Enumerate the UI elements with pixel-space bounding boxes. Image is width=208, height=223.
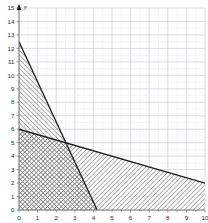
y-tick-label: 13 — [8, 31, 15, 38]
x-tick-marks — [19, 210, 205, 213]
y-tick-label: 0 — [11, 206, 15, 213]
x-tick-label: 1 — [36, 214, 40, 221]
y-axis-tick-labels: 0123456789101112131415 — [8, 4, 15, 213]
y-tick-label: 3 — [11, 166, 15, 173]
x-tick-label: 4 — [92, 214, 96, 221]
y-tick-label: 15 — [8, 4, 15, 11]
y-tick-label: 1 — [11, 193, 15, 200]
y-tick-label: 11 — [8, 58, 15, 65]
x-tick-label: 2 — [54, 214, 58, 221]
y-tick-label: 8 — [11, 98, 15, 105]
x-axis-tick-labels: 012345678910 — [17, 214, 208, 221]
x-tick-label: 7 — [147, 214, 151, 221]
y-tick-label: 4 — [11, 152, 15, 159]
y-tick-label: 12 — [8, 45, 15, 52]
x-tick-label: 5 — [110, 214, 114, 221]
y-tick-label: 14 — [8, 18, 15, 25]
chart-container: 012345678910 0123456789101112131415 y — [0, 0, 208, 223]
y-tick-label: 6 — [11, 125, 15, 132]
x-tick-label: 0 — [17, 214, 21, 221]
y-tick-label: 2 — [11, 179, 15, 186]
y-axis-arrow-icon — [17, 4, 22, 10]
y-tick-label: 9 — [11, 85, 15, 92]
y-tick-label: 5 — [11, 139, 15, 146]
y-axis-label: y — [23, 3, 27, 10]
x-tick-label: 6 — [129, 214, 133, 221]
x-tick-label: 8 — [166, 214, 170, 221]
x-tick-label: 3 — [73, 214, 77, 221]
x-tick-label: 9 — [185, 214, 189, 221]
x-tick-label: 10 — [202, 214, 208, 221]
coordinate-plane: 012345678910 0123456789101112131415 y — [0, 0, 208, 223]
y-tick-label: 7 — [11, 112, 15, 119]
y-tick-label: 10 — [8, 72, 15, 79]
